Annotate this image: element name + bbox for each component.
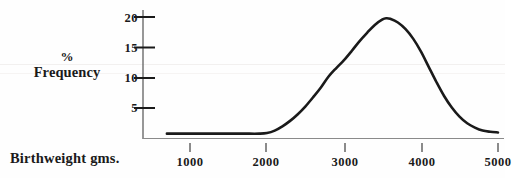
frequency-distribution-curve: [167, 18, 498, 134]
x-axis-ticks: [190, 143, 498, 152]
y-axis-ticks: [134, 17, 155, 108]
